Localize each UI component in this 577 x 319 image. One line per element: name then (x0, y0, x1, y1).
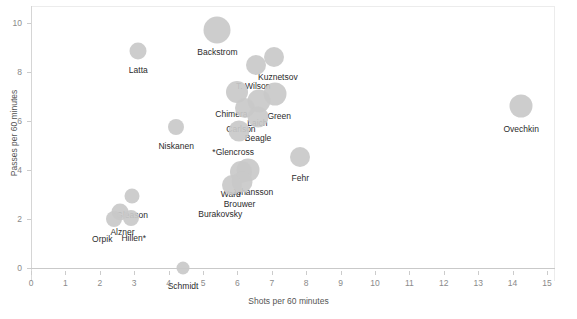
y-axis-title: Passes per 60 minutes (9, 63, 19, 203)
data-point-label: Niskanen (158, 141, 193, 151)
data-point[interactable] (204, 16, 231, 43)
x-tick-label: 6 (235, 278, 240, 288)
x-tick (100, 271, 101, 275)
data-point[interactable] (248, 107, 269, 128)
data-point[interactable] (510, 94, 533, 117)
x-tick-label: 4 (166, 278, 171, 288)
x-tick-label: 10 (370, 278, 379, 288)
x-tick (237, 271, 238, 275)
x-tick (169, 271, 170, 275)
x-tick (134, 271, 135, 275)
y-tick (27, 219, 31, 220)
data-point-label: Green (267, 111, 291, 121)
data-point[interactable] (125, 188, 140, 203)
x-tick (478, 271, 479, 275)
y-tick (27, 170, 31, 171)
data-point-label: Burakovsky (198, 209, 242, 219)
y-tick (27, 268, 31, 269)
y-tick-label: 2 (0, 214, 22, 224)
y-tick (27, 23, 31, 24)
y-tick-label: 6 (0, 116, 22, 126)
y-tick-label: 0 (0, 263, 22, 273)
data-point-label: Orpik (92, 234, 112, 244)
data-point[interactable] (290, 147, 310, 167)
data-point[interactable] (106, 211, 122, 227)
data-point-label: Latta (129, 65, 148, 75)
data-point[interactable] (130, 42, 147, 59)
x-tick-label: 15 (542, 278, 551, 288)
x-tick (306, 271, 307, 275)
x-tick (513, 271, 514, 275)
x-tick-label: 2 (97, 278, 102, 288)
data-point-label: Fehr (292, 173, 309, 183)
x-tick (272, 271, 273, 275)
x-tick (375, 271, 376, 275)
x-tick-label: 1 (63, 278, 68, 288)
x-tick-label: 5 (201, 278, 206, 288)
x-tick-label: 11 (405, 278, 414, 288)
data-point[interactable] (264, 47, 284, 67)
data-point-label: Schmidt (168, 281, 199, 291)
x-tick-label: 12 (439, 278, 448, 288)
plot-area: BackstromLattaKuznetsovT. WilsonChimeraG… (0, 0, 577, 319)
x-tick-label: 3 (132, 278, 137, 288)
data-point-label: Hillen* (121, 233, 146, 243)
data-point[interactable] (177, 262, 190, 275)
data-point[interactable] (246, 55, 266, 75)
x-tick (65, 271, 66, 275)
y-tick-label: 4 (0, 165, 22, 175)
x-tick (31, 271, 32, 275)
data-point[interactable] (123, 210, 139, 226)
x-tick-label: 13 (473, 278, 482, 288)
x-tick (409, 271, 410, 275)
x-tick (444, 271, 445, 275)
y-tick-label: 8 (0, 67, 22, 77)
x-tick-label: 0 (29, 278, 34, 288)
x-axis-title: Shots per 60 minutes (0, 296, 577, 306)
x-tick-label: 14 (508, 278, 517, 288)
x-tick-label: 7 (269, 278, 274, 288)
x-tick-label: 9 (338, 278, 343, 288)
x-tick (547, 271, 548, 275)
data-point[interactable] (222, 175, 242, 195)
data-point[interactable] (168, 119, 184, 135)
y-tick (27, 72, 31, 73)
scatter-chart: BackstromLattaKuznetsovT. WilsonChimeraG… (0, 0, 577, 319)
data-point-label: *Glencross (212, 147, 254, 157)
y-tick-label: 10 (0, 18, 22, 28)
y-tick (27, 121, 31, 122)
data-point[interactable] (229, 121, 250, 142)
data-point-label: Backstrom (197, 47, 237, 57)
x-tick (203, 271, 204, 275)
data-point-label: Ovechkin (503, 124, 538, 134)
data-point-label: Brouwer (224, 199, 256, 209)
x-tick-label: 8 (304, 278, 309, 288)
x-tick (341, 271, 342, 275)
